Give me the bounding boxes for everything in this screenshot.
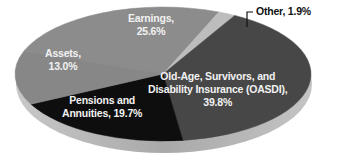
label-earnings: Earnings, 25.6% xyxy=(128,12,174,38)
label-earnings-value: 25.6% xyxy=(128,25,174,38)
label-earnings-name: Earnings, xyxy=(128,12,174,25)
label-oasdi-line2: Disability Insurance (OASDI), xyxy=(148,83,287,96)
label-pensions: Pensions and Annuities, 19.7% xyxy=(62,94,142,120)
label-pensions-value: Annuities, 19.7% xyxy=(62,107,142,120)
label-other-text: Other, 1.9% xyxy=(256,5,311,18)
label-oasdi: Old-Age, Survivors, and Disability Insur… xyxy=(148,70,287,109)
pie-chart: Earnings, 25.6% Other, 1.9% Assets, 13.0… xyxy=(0,0,338,162)
label-pensions-name: Pensions and xyxy=(62,94,142,107)
label-assets-name: Assets, xyxy=(45,47,81,60)
label-oasdi-value: 39.8% xyxy=(148,96,287,109)
label-oasdi-line1: Old-Age, Survivors, and xyxy=(148,70,287,83)
label-other: Other, 1.9% xyxy=(256,5,311,18)
label-assets: Assets, 13.0% xyxy=(45,47,81,73)
label-assets-value: 13.0% xyxy=(45,60,81,73)
